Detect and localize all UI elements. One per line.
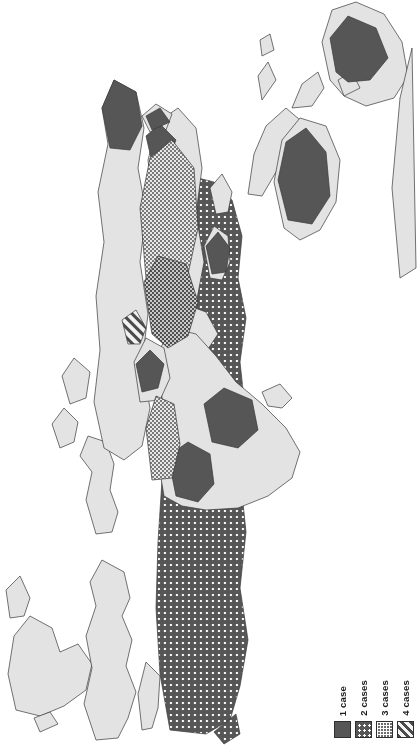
case-count-legend: 1 case 2 cases 3 cases 4 cases [334, 680, 414, 738]
legend-swatch-4-cases [397, 721, 414, 738]
legend-label-3-cases: 3 cases [380, 680, 390, 716]
map-rotation-wrapper [0, 0, 420, 748]
legend-label-1-case: 1 case [338, 686, 348, 716]
world-map-canvas [0, 0, 420, 748]
scanned-figure-page: 1 case 2 cases 3 cases 4 cases [0, 0, 420, 748]
legend-swatch-1-case [334, 721, 351, 738]
legend-item-3-cases: 3 cases [376, 680, 393, 738]
legend-swatch-2-cases [355, 721, 372, 738]
legend-item-1-case: 1 case [334, 686, 351, 738]
legend-label-4-cases: 4 cases [401, 680, 411, 716]
legend-label-2-cases: 2 cases [359, 680, 369, 716]
legend-item-4-cases: 4 cases [397, 680, 414, 738]
legend-item-2-cases: 2 cases [355, 680, 372, 738]
legend-swatch-3-cases [376, 721, 393, 738]
